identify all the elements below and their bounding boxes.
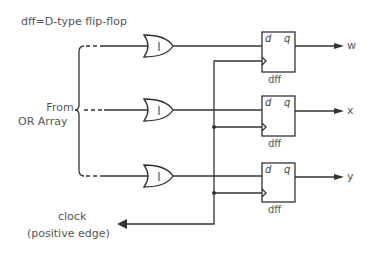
or-gate-1 [144, 35, 173, 57]
output-y: y [347, 170, 354, 183]
diagram-title: dff=D-type flip-flop [21, 15, 127, 28]
dff3-d-pin: d [265, 164, 271, 175]
input-label-or-array: OR Array [18, 115, 67, 128]
dff1-label: dff [268, 74, 281, 85]
clock-junction-3 [212, 191, 216, 195]
or-gate-2 [144, 99, 173, 121]
arrow-w-icon [334, 43, 344, 49]
dff2-d-pin: d [265, 97, 271, 108]
clock-line [125, 61, 262, 224]
dff1-q-pin: q [284, 33, 290, 44]
clock-label: clock [58, 210, 86, 223]
dff3-q-pin: q [284, 164, 290, 175]
circuit-diagram [0, 0, 378, 257]
clock-edge-label: (positive edge) [27, 227, 110, 240]
arrow-y-icon [334, 174, 344, 180]
clock-arrow-icon [117, 219, 127, 229]
arrow-x-icon [334, 108, 344, 114]
dff2-q-pin: q [284, 97, 290, 108]
dff1-d-pin: d [265, 33, 271, 44]
dff3-label: dff [268, 204, 281, 215]
output-w: w [347, 39, 356, 52]
or-gate-3 [144, 165, 173, 187]
dff2-label: dff [268, 138, 281, 149]
output-x: x [347, 104, 354, 117]
input-label-from: From [35, 101, 85, 114]
clock-junction-2 [212, 125, 216, 129]
